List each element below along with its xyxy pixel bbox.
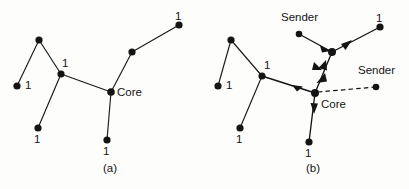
node-b-lower-leaf [236,124,243,131]
weight-label-a-3: 1 [34,134,40,145]
arrowhead-b-into-core [317,73,328,83]
edge-b-core-bottom [309,93,315,142]
node-a-bottom-leaf [103,136,110,143]
edge-b-top-junction [231,40,262,76]
weight-label-b-4: 1 [305,148,311,159]
node-b-junction [258,72,265,79]
arrowhead-b-to-topright [341,40,352,50]
weight-label-b-5: 1 [376,13,382,24]
weight-label-a-2: 1 [62,58,68,69]
node-a-core [107,88,115,96]
node-a-top [35,36,42,43]
weight-label-b-2: 1 [264,60,270,71]
weight-label-a-4: 1 [103,146,109,157]
node-a-mid-right [128,48,135,55]
panel-b-caption: (b) [306,163,320,174]
edge-a-midright-top [132,25,179,52]
edge-a-core-bottom [107,92,111,140]
panel-b-graph [214,23,383,145]
edge-b-core-midright [315,52,332,93]
weight-label-a-1: 1 [25,80,31,91]
node-b-top [227,36,234,43]
figure-canvas [0,0,409,189]
node-a-left-leaf [13,82,20,89]
panel-a-graph [13,21,182,143]
node-b-sender-right [373,84,380,91]
sender-label-upper: Sender [281,12,318,23]
core-label-a: Core [117,87,142,98]
node-a-junction [57,70,64,77]
arrowhead-b-to-bottom [311,103,319,114]
weight-label-b-1: 1 [226,80,232,91]
node-a-lower-leaf [34,124,41,131]
node-a-top-right [175,21,182,28]
node-b-bottom-leaf [305,138,312,145]
edge-b-junction-lower [240,76,262,128]
node-b-sender-upper [296,31,303,38]
node-b-top-right [376,23,383,30]
edge-a-junction-core [61,74,111,92]
edge-b-core-junction [262,76,315,93]
node-b-core [311,89,319,97]
panel-a-caption: (a) [103,163,117,174]
weight-label-b-3: 1 [236,134,242,145]
node-b-mid-right [328,48,336,56]
core-label-b: Core [321,99,346,110]
multicast-tree-figure: 1 1 1 1 1 Core (a) 1 1 1 1 1 Core Sender… [0,0,409,189]
node-b-left-leaf [214,82,221,89]
edge-a-junction-lower [38,74,61,128]
sender-label-right: Sender [358,65,395,76]
edge-a-top-junction [39,40,61,74]
weight-label-a-5: 1 [175,11,181,22]
edge-b-senderright-core [318,87,376,92]
edge-b-midright-topright [332,27,380,52]
